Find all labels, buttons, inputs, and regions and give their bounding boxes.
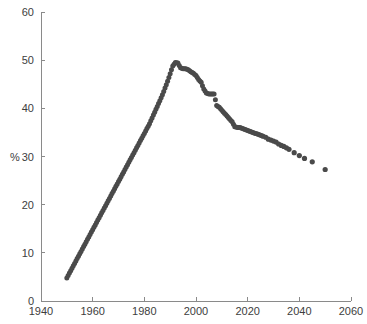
y-tick-label: 30 [22, 151, 34, 163]
data-point [212, 91, 217, 96]
data-point [323, 167, 328, 172]
y-tick-label: 20 [22, 199, 34, 211]
data-point [302, 156, 307, 161]
data-point [292, 150, 297, 155]
y-axis-label-text: % [10, 151, 20, 163]
data-series-percent [64, 60, 327, 280]
x-tick-label: 2000 [184, 305, 208, 317]
y-axis-label: % [10, 151, 20, 163]
y-tick-label: 0 [28, 295, 34, 307]
x-tick-label: 2060 [339, 305, 363, 317]
x-tick-label: 1980 [132, 305, 156, 317]
data-point [297, 153, 302, 158]
x-tick-label: 1960 [80, 305, 104, 317]
y-tick-label: 10 [22, 247, 34, 259]
scatter-plot: 1940196019802000202020402060010203040506… [0, 0, 367, 324]
y-tick-label: 40 [22, 102, 34, 114]
data-point [310, 159, 315, 164]
y-tick-label: 60 [22, 6, 34, 18]
y-tick-label: 50 [22, 54, 34, 66]
data-point [213, 97, 218, 102]
x-tick-label: 2040 [287, 305, 311, 317]
chart-container: 1940196019802000202020402060010203040506… [0, 0, 367, 324]
x-tick-label: 2020 [235, 305, 259, 317]
data-point [286, 147, 291, 152]
